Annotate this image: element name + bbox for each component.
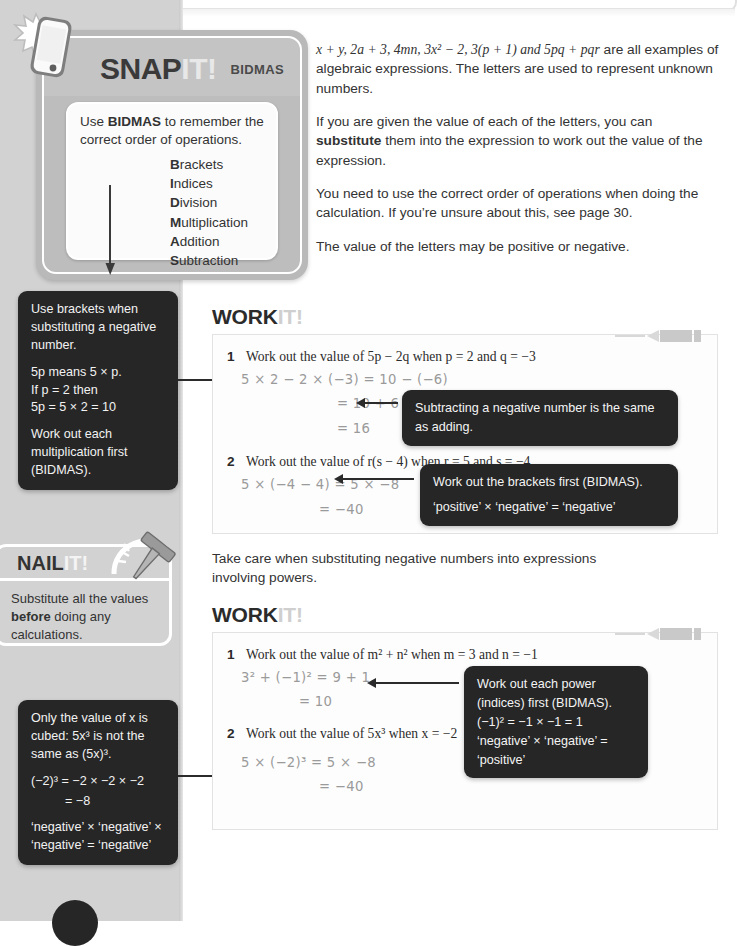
working-line: = −40 — [319, 777, 703, 797]
smartphone-flash-icon — [12, 10, 86, 84]
snapit-lead-bold: BIDMAS — [108, 114, 161, 129]
question: 1Work out the value of 5p − 2q when p = … — [227, 347, 703, 366]
page-number-badge — [52, 900, 98, 946]
bidmas-list: Brackets Indices Division Multiplication… — [130, 155, 264, 270]
note-line: Only the value of x is cubed: 5x³ is not… — [31, 710, 165, 764]
question-text: Work out the value of 5p − 2q when p = 2… — [246, 349, 536, 364]
workit-block-1: WORKIT! 1Work out the value of 5p − 2q w… — [212, 306, 718, 534]
callout-line-2: (−1)² = −1 × −1 = 1 — [477, 713, 635, 732]
question-number: 2 — [227, 724, 235, 743]
intro-paragraph-2-a: If you are given the value of each of th… — [316, 114, 652, 129]
workit-title: WORKIT! — [212, 604, 718, 625]
downward-order-arrow-icon — [105, 185, 116, 277]
callout-text: Work out the brackets first (BIDMAS). — [433, 473, 665, 492]
snapit-title-accent: IT! — [181, 52, 216, 85]
bidmas-item-rest: ubtraction — [179, 253, 238, 268]
question-text: Work out the value of 5x³ when x = −2 — [246, 726, 457, 741]
note-line: If p = 2 then — [31, 382, 165, 400]
bidmas-item-cap: B — [170, 157, 180, 172]
question-number: 1 — [227, 347, 235, 366]
workit-title-main: WORK — [212, 305, 278, 328]
nailit-panel: NAILIT! Substitute all the values before… — [0, 538, 183, 648]
question-number: 2 — [227, 452, 235, 471]
bidmas-item-rest: ndices — [174, 176, 213, 191]
snapit-title-main: SNAP — [100, 52, 181, 85]
note-line: Use brackets when substituting a negativ… — [31, 301, 165, 355]
note-use-brackets: Use brackets when substituting a negativ… — [18, 291, 178, 490]
bidmas-item-rest: ultiplication — [181, 215, 248, 230]
nailit-title-main: NAIL — [17, 552, 64, 574]
snapit-lead: Use BIDMAS to remember the correct order… — [80, 113, 264, 148]
takecare-paragraph: Take care when substituting negative num… — [212, 549, 632, 588]
bidmas-item-cap: S — [170, 253, 179, 268]
nailit-title-accent: IT! — [64, 552, 88, 574]
note-line: ‘negative’ × ‘negative’ × ‘negative’ = ‘… — [31, 819, 165, 855]
working-line: 5 × 2 − 2 × (−3) = 10 − (−6) — [241, 370, 703, 390]
callout-arrow — [342, 478, 414, 480]
callout-text: ‘positive’ × ‘negative’ = ‘negative’ — [433, 498, 665, 517]
pencil-icon — [615, 328, 711, 344]
bidmas-item-cap: A — [170, 234, 180, 249]
bidmas-item: Addition — [170, 232, 264, 251]
pencil-icon — [615, 626, 711, 642]
nail-icon — [108, 530, 180, 602]
callout-line-1: Work out the brackets first (BIDMAS). — [433, 475, 643, 489]
top-divider-shadow — [183, 9, 735, 17]
workit-title-accent: IT! — [278, 305, 303, 328]
callout-arrow — [364, 402, 398, 404]
snapit-title: SNAPIT! — [100, 54, 217, 84]
question: 2Work out the value of 5x³ when x = −2 — [227, 724, 476, 743]
question-number: 1 — [227, 645, 235, 664]
callout-text: Subtracting a negative number is the sam… — [415, 399, 665, 437]
bidmas-item-cap: D — [170, 195, 180, 210]
question-text: Work out the value of m² + n² when m = 3… — [246, 647, 538, 662]
bidmas-item-rest: ddition — [180, 234, 220, 249]
note-line: Work out each multiplication first (BIDM… — [31, 426, 165, 480]
note-only-x-cubed: Only the value of x is cubed: 5x³ is not… — [18, 700, 178, 865]
bidmas-item-cap: M — [170, 215, 181, 230]
note-line: = −8 — [65, 793, 165, 811]
workit-block-2: WORKIT! 1Work out the value of m² + n² w… — [212, 604, 718, 830]
bidmas-item: Multiplication — [170, 213, 264, 232]
substitute-bold: substitute — [316, 133, 381, 148]
nailit-body-bold: before — [11, 609, 51, 624]
intro-paragraph-3: You need to use the correct order of ope… — [316, 184, 720, 223]
snapit-lead-before: Use — [80, 114, 108, 129]
note-line: 5p means 5 × p. — [31, 364, 165, 382]
bidmas-item: Division — [170, 193, 264, 212]
bidmas-item: Brackets — [170, 155, 264, 174]
workit-title: WORKIT! — [212, 306, 718, 327]
callout-line-3: ‘negative’ × ‘negative’ = ‘positive’ — [477, 732, 635, 770]
bidmas-item: Indices — [170, 174, 264, 193]
bidmas-item-rest: rackets — [180, 157, 224, 172]
callout-brackets-first: Work out the brackets first (BIDMAS). ‘p… — [420, 464, 678, 526]
workit-title-accent: IT! — [278, 603, 303, 626]
algebraic-expressions-list: x + y, 2a + 3, 4mn, 3x² − 2, 3(p + 1) an… — [316, 42, 600, 57]
callout-line-1: Work out each power (indices) first (BID… — [477, 675, 635, 713]
callout-arrow — [375, 682, 459, 684]
note-line: 5p = 5 × 2 = 10 — [31, 399, 165, 417]
bidmas-item-rest: ivision — [180, 195, 218, 210]
workit-title-main: WORK — [212, 603, 278, 626]
nailit-title: NAILIT! — [17, 553, 88, 573]
snapit-topic: BIDMAS — [231, 62, 285, 77]
intro-text: x + y, 2a + 3, 4mn, 3x² − 2, 3(p + 1) an… — [316, 40, 720, 256]
intro-paragraph-4: The value of the letters may be positive… — [316, 237, 720, 256]
snapit-panel: SNAPIT! BIDMAS Use BIDMAS to remember th… — [18, 18, 308, 281]
intro-paragraph-2: If you are given the value of each of th… — [316, 112, 720, 170]
snapit-card: Use BIDMAS to remember the correct order… — [66, 102, 278, 260]
note-line: (−2)³ = −2 × −2 × −2 — [31, 773, 165, 791]
intro-paragraph-1: x + y, 2a + 3, 4mn, 3x² − 2, 3(p + 1) an… — [316, 40, 720, 98]
callout-power-indices: Work out each power (indices) first (BID… — [464, 666, 648, 778]
callout-subtracting-negative: Subtracting a negative number is the sam… — [402, 390, 678, 446]
bidmas-item: Subtraction — [170, 251, 264, 270]
callout-line-2: ‘positive’ × ‘negative’ = ‘negative’ — [433, 500, 616, 514]
question: 1Work out the value of m² + n² when m = … — [227, 645, 703, 664]
